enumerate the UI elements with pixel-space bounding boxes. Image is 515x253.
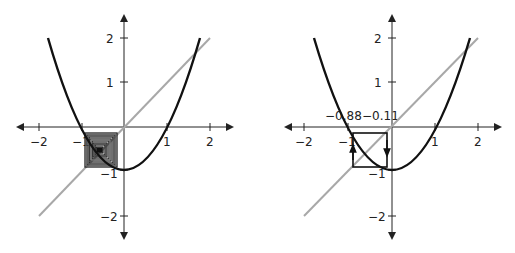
x-axis-arrow-left-icon <box>16 123 24 131</box>
cobweb-figure: −2 −1 1 2 2 1 −1 −2 <box>0 0 515 253</box>
annotation-label: −0.11 <box>362 109 399 123</box>
y-tick-label: −2 <box>368 210 386 224</box>
x-tick-label: −2 <box>295 135 313 149</box>
right-panel: −2 −1 1 2 2 1 −1 −2 −0.88 −0.11 <box>284 14 502 240</box>
y-tick-label: 1 <box>106 76 114 90</box>
y-axis-arrow-down-icon <box>388 232 396 240</box>
y-axis-arrow-down-icon <box>120 232 128 240</box>
left-panel: −2 −1 1 2 2 1 −1 −2 <box>16 14 234 240</box>
x-tick-label: 2 <box>206 135 214 149</box>
x-tick-label: 2 <box>474 135 482 149</box>
y-axis-arrow-up-icon <box>388 14 396 22</box>
x-axis-arrow-right-icon <box>226 123 234 131</box>
y-tick-label: −2 <box>100 210 118 224</box>
x-tick-label: −2 <box>30 135 48 149</box>
x-axis-arrow-left-icon <box>284 123 292 131</box>
y-tick-label: 1 <box>374 76 382 90</box>
y-tick-label: 2 <box>374 32 382 46</box>
x-tick-label: 1 <box>163 135 171 149</box>
x-axis-arrow-right-icon <box>494 123 502 131</box>
y-axis-arrow-up-icon <box>120 14 128 22</box>
y-tick-label: 2 <box>106 32 114 46</box>
